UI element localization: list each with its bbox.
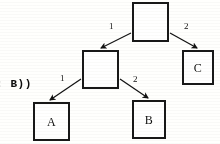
edge-root-to-middle <box>101 33 131 48</box>
figure-canvas: C A B 1 2 1 2 : B)) <box>0 0 220 144</box>
tree-node-a: A <box>33 102 70 141</box>
edge-label-root-middle: 1 <box>109 22 114 31</box>
tree-node-root <box>132 2 169 42</box>
edge-label-middle-b: 2 <box>133 75 138 84</box>
code-fragment-text: : B)) <box>0 78 32 90</box>
edge-root-to-c <box>170 33 197 48</box>
tree-node-c: C <box>182 50 214 85</box>
edge-label-middle-a: 1 <box>60 74 65 83</box>
edge-middle-to-a <box>50 79 81 100</box>
tree-node-b-label: B <box>145 113 153 125</box>
tree-node-b: B <box>132 100 166 139</box>
edge-label-root-c: 2 <box>184 22 189 31</box>
tree-node-c-label: C <box>194 61 202 73</box>
tree-node-middle <box>82 50 119 89</box>
tree-node-a-label: A <box>47 115 56 127</box>
